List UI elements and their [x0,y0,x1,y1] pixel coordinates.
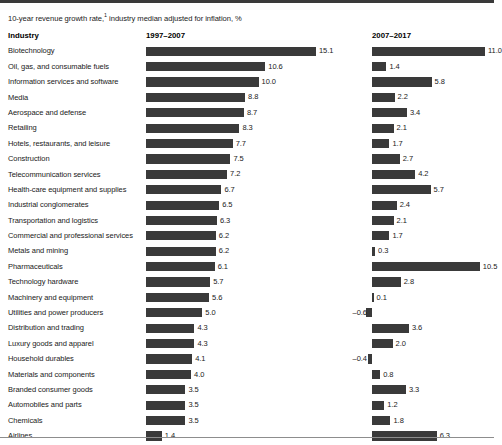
bar [372,401,384,410]
bar [146,370,191,379]
industry-label: Hotels, restaurants, and leisure [8,139,110,148]
chart-row: Machinery and equipment5.60.1 [0,290,494,305]
bar-track: 0.1 [372,290,494,305]
bar [372,170,415,179]
bar [146,62,265,71]
bar-track: 1.2 [372,398,494,413]
bar-value-label: 5.7 [210,277,223,286]
bar-value-label: 6.2 [216,246,229,255]
chart-row: Hotels, restaurants, and leisure7.71.7 [0,136,494,151]
bar [372,324,409,333]
bar [372,154,400,163]
bottom-rule [0,437,494,438]
bar-track: 2.0 [372,336,494,351]
chart-row: Construction7.52.7 [0,152,494,167]
bar-track: 8.7 [146,106,372,121]
bar-track: 4.1 [146,352,372,367]
top-rule [0,0,494,3]
bar-value-label: 2.1 [394,216,407,225]
bar [372,77,432,86]
bar-track: 15.1 [146,44,372,59]
bar [368,354,372,363]
bar-value-label: 1.7 [389,139,402,148]
chart-rows: Biotechnology15.111.0Oil, gas, and consu… [0,44,494,444]
bar-value-label: 4.1 [192,354,205,363]
chart-row: Retailing8.32.1 [0,121,494,136]
bar-value-label: 8.7 [244,108,257,117]
bar [372,231,389,240]
industry-label: Telecommunication services [8,170,101,179]
industry-label: Media [8,93,28,102]
bar [146,231,216,240]
bar [372,62,386,71]
bar-value-label: 5.8 [432,77,445,86]
bar [146,154,230,163]
chart-row: Utilities and power producers5.0–0.6 [0,306,494,321]
bar [372,370,380,379]
bar-value-label: 7.7 [233,139,246,148]
column-header-period1: 1997–2007 [146,31,185,40]
bar-value-label: 5.7 [431,185,444,194]
bar-value-label: –0.4 [353,354,367,363]
bar-track: 6.2 [146,229,372,244]
bar-track: 2.2 [372,90,494,105]
bar-track: 6.1 [146,259,372,274]
chart-row: Media8.82.2 [0,90,494,105]
bar-track: 6.3 [146,213,372,228]
bar-value-label: 10.0 [259,77,276,86]
chart-row: Aerospace and defense8.73.4 [0,106,494,121]
bar [146,247,216,256]
chart-row: Branded consumer goods3.53.3 [0,383,494,398]
bar [146,401,185,410]
bar [146,170,227,179]
bar-value-label: 15.1 [316,46,333,55]
bar [146,139,233,148]
bar-value-label: 3.4 [407,108,420,117]
industry-label: Metals and mining [8,246,68,255]
bar-track: 5.6 [146,290,372,305]
bar-track: 2.4 [372,198,494,213]
bar [146,262,215,271]
bar [146,77,259,86]
bar [372,139,389,148]
bar-value-label: 7.5 [230,154,243,163]
industry-label: Branded consumer goods [8,385,93,394]
bar [146,216,217,225]
bar-track: 2.1 [372,121,494,136]
bar [372,185,431,194]
bar-track: 4.3 [146,321,372,336]
bar-track: 5.7 [146,275,372,290]
chart-row: Chemicals3.51.8 [0,413,494,428]
bar-track: 2.8 [372,275,494,290]
industry-label: Utilities and power producers [8,308,103,317]
bar-track: 0.3 [372,244,494,259]
chart-row: Transportation and logistics6.32.1 [0,213,494,228]
chart-row: Distribution and trading4.33.6 [0,321,494,336]
bar-value-label: 8.3 [239,123,252,132]
bar-track: 3.6 [372,321,494,336]
industry-label: Airlines [8,431,32,440]
bar-value-label: 6.3 [217,216,230,225]
bar-track: 7.7 [146,136,372,151]
column-header-period2: 2007–2017 [372,31,411,40]
bar-value-label: 10.5 [480,262,497,271]
chart-row: Biotechnology15.111.0 [0,44,494,59]
bar-track: 2.7 [372,152,494,167]
chart-row: Industrial conglomerates6.52.4 [0,198,494,213]
bar-value-label: 1.4 [162,431,175,440]
bar [146,277,210,286]
bar-track: 1.8 [372,413,494,428]
bar-value-label: 2.2 [395,92,408,101]
bar-value-label: 11.0 [485,46,502,55]
industry-label: Luxury goods and apparel [8,339,94,348]
bar [372,216,394,225]
industry-label: Machinery and equipment [8,293,93,302]
bar-value-label: 6.7 [221,185,234,194]
bar [146,93,245,102]
chart-row: Household durables4.1–0.4 [0,352,494,367]
bar-track: 10.0 [146,75,372,90]
industry-label: Transportation and logistics [8,216,98,225]
bar-value-label: 4.3 [194,339,207,348]
bar [146,201,219,210]
bar-value-label: 4.0 [191,370,204,379]
